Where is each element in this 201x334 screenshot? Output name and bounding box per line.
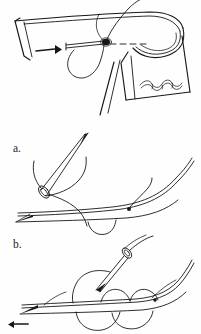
cuff-band-left-edge-inner xyxy=(131,56,135,99)
hem-tail-diagonal xyxy=(100,62,114,115)
needle-shaft-left xyxy=(41,134,85,190)
panel-a: a. xyxy=(13,133,194,235)
fabric-lower-edge-b xyxy=(20,292,186,314)
thread-through-eye-b2 xyxy=(124,235,146,249)
panel-b: b. xyxy=(8,235,194,330)
sewing-illustration-svg: a. xyxy=(0,0,201,334)
illustration-figure: a. xyxy=(0,0,201,334)
hem-tail-diagonal-inner xyxy=(108,60,120,113)
thread-tail xyxy=(107,0,143,39)
stitch-loop-under xyxy=(88,220,116,235)
direction-arrow xyxy=(36,45,62,54)
thread-end-knot-b xyxy=(153,298,157,302)
fabric-lower-edge xyxy=(16,200,178,222)
under-loop-1 xyxy=(76,312,120,330)
thread-through-eye-b xyxy=(130,236,153,250)
decorative-scallop-trim xyxy=(140,80,182,90)
panel-top xyxy=(15,0,190,115)
under-loop-2 xyxy=(112,311,153,329)
rolled-cuff-curve xyxy=(133,28,184,58)
cuff-band-right-edge xyxy=(182,36,190,92)
fabric-upper-edge-b2 xyxy=(22,263,194,308)
rolled-cuff-curve-inner2 xyxy=(141,33,176,51)
panel-b-label: b. xyxy=(13,238,22,250)
fabric-left-tip-b xyxy=(20,305,38,314)
folded-hem-corner-inner xyxy=(24,22,32,57)
thread-through-eye xyxy=(33,161,41,188)
direction-arrow-small xyxy=(8,321,28,328)
cuff-band-left-edge xyxy=(121,52,128,100)
thread-end-knot xyxy=(127,207,131,211)
panel-a-label: a. xyxy=(13,142,21,154)
fabric-upper-edge-b xyxy=(22,260,192,305)
needle-eye xyxy=(36,184,51,200)
thread-end-curve xyxy=(130,178,152,207)
needle-shaft-left-b xyxy=(96,256,124,290)
thread-loop-below xyxy=(68,44,104,78)
needle-shaft-right-b xyxy=(100,258,128,292)
cuff-band-bottom-edge xyxy=(126,92,190,100)
